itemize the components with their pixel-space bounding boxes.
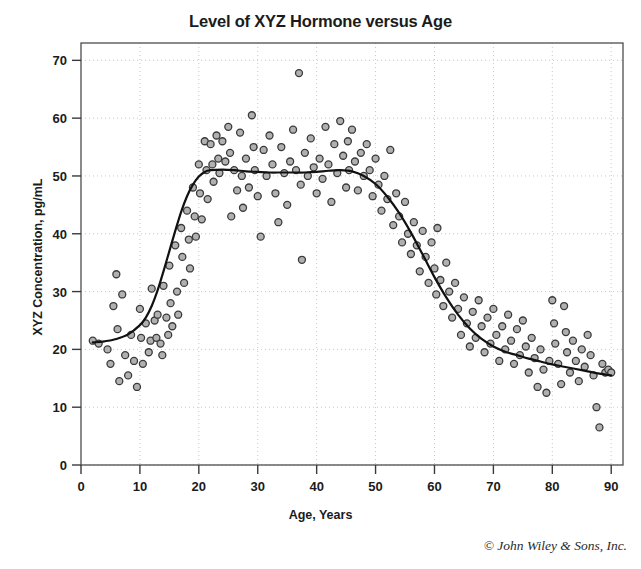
data-point bbox=[195, 161, 202, 168]
data-point bbox=[449, 314, 456, 321]
data-point bbox=[440, 303, 447, 310]
data-point bbox=[499, 323, 506, 330]
data-point bbox=[587, 352, 594, 359]
data-point bbox=[219, 138, 226, 145]
data-point bbox=[366, 167, 373, 174]
data-point bbox=[572, 357, 579, 364]
data-point bbox=[167, 300, 174, 307]
data-point bbox=[596, 424, 603, 431]
data-point bbox=[344, 138, 351, 145]
data-point bbox=[378, 207, 385, 214]
copyright-notice: © John Wiley & Sons, Inc. bbox=[484, 538, 627, 554]
y-tick-label: 40 bbox=[53, 227, 67, 242]
data-point bbox=[372, 155, 379, 162]
data-point bbox=[534, 383, 541, 390]
data-point bbox=[369, 193, 376, 200]
data-point bbox=[269, 161, 276, 168]
data-point bbox=[114, 326, 121, 333]
data-point bbox=[186, 265, 193, 272]
data-point bbox=[113, 271, 120, 278]
x-tick-label: 10 bbox=[133, 479, 147, 494]
data-point bbox=[543, 389, 550, 396]
data-point bbox=[343, 184, 350, 191]
data-point bbox=[179, 253, 186, 260]
x-tick-label: 70 bbox=[486, 479, 500, 494]
data-point bbox=[250, 144, 257, 151]
data-point bbox=[387, 146, 394, 153]
data-point bbox=[227, 149, 234, 156]
data-point bbox=[266, 132, 273, 139]
x-tick-label: 50 bbox=[368, 479, 382, 494]
data-point bbox=[169, 323, 176, 330]
data-point bbox=[578, 346, 585, 353]
data-point bbox=[390, 222, 397, 229]
data-point bbox=[354, 187, 361, 194]
data-point bbox=[322, 123, 329, 130]
data-point bbox=[561, 303, 568, 310]
data-point bbox=[419, 227, 426, 234]
data-point bbox=[254, 193, 261, 200]
data-point bbox=[242, 155, 249, 162]
data-point bbox=[508, 337, 515, 344]
data-point bbox=[337, 118, 344, 125]
data-point bbox=[363, 141, 370, 148]
data-point bbox=[325, 161, 332, 168]
data-point bbox=[416, 268, 423, 275]
data-point bbox=[116, 378, 123, 385]
data-point bbox=[307, 135, 314, 142]
data-point bbox=[181, 279, 188, 286]
data-point bbox=[174, 288, 181, 295]
data-point bbox=[496, 357, 503, 364]
x-tick-label: 40 bbox=[309, 479, 323, 494]
data-point bbox=[301, 149, 308, 156]
data-point bbox=[393, 190, 400, 197]
data-point bbox=[122, 352, 129, 359]
data-point bbox=[452, 279, 459, 286]
data-point bbox=[110, 303, 117, 310]
y-axis-title: XYZ Concentration, pg/mL bbox=[31, 137, 45, 377]
data-point bbox=[519, 317, 526, 324]
data-point bbox=[484, 314, 491, 321]
data-point bbox=[119, 291, 126, 298]
x-tick-label: 60 bbox=[427, 479, 441, 494]
data-point bbox=[505, 311, 512, 318]
y-tick-label: 50 bbox=[53, 169, 67, 184]
data-point bbox=[569, 337, 576, 344]
data-point bbox=[511, 360, 518, 367]
data-point bbox=[154, 311, 161, 318]
data-point bbox=[443, 259, 450, 266]
data-point bbox=[148, 285, 155, 292]
data-point bbox=[191, 213, 198, 220]
data-point bbox=[537, 346, 544, 353]
x-axis-title: Age, Years bbox=[0, 508, 641, 522]
data-point bbox=[551, 320, 558, 327]
x-tick-label: 0 bbox=[77, 479, 84, 494]
data-point bbox=[131, 357, 138, 364]
data-point bbox=[331, 141, 338, 148]
data-point bbox=[351, 158, 358, 165]
data-point bbox=[272, 190, 279, 197]
data-point bbox=[457, 331, 464, 338]
data-point bbox=[310, 164, 317, 171]
data-point bbox=[349, 126, 356, 133]
data-point bbox=[493, 331, 500, 338]
data-point bbox=[469, 308, 476, 315]
data-point bbox=[157, 340, 164, 347]
data-point bbox=[210, 178, 217, 185]
data-point bbox=[290, 126, 297, 133]
data-point bbox=[434, 224, 441, 231]
data-point bbox=[410, 219, 417, 226]
data-point bbox=[133, 383, 140, 390]
data-point bbox=[584, 331, 591, 338]
data-point bbox=[528, 334, 535, 341]
data-point bbox=[298, 256, 305, 263]
data-point bbox=[475, 297, 482, 304]
data-point bbox=[433, 291, 440, 298]
data-point bbox=[425, 279, 432, 286]
x-tick-label: 20 bbox=[192, 479, 206, 494]
data-point bbox=[399, 239, 406, 246]
y-tick-label: 30 bbox=[53, 285, 67, 300]
data-point bbox=[138, 334, 145, 341]
y-tick-label: 10 bbox=[53, 400, 67, 415]
data-point bbox=[175, 311, 182, 318]
